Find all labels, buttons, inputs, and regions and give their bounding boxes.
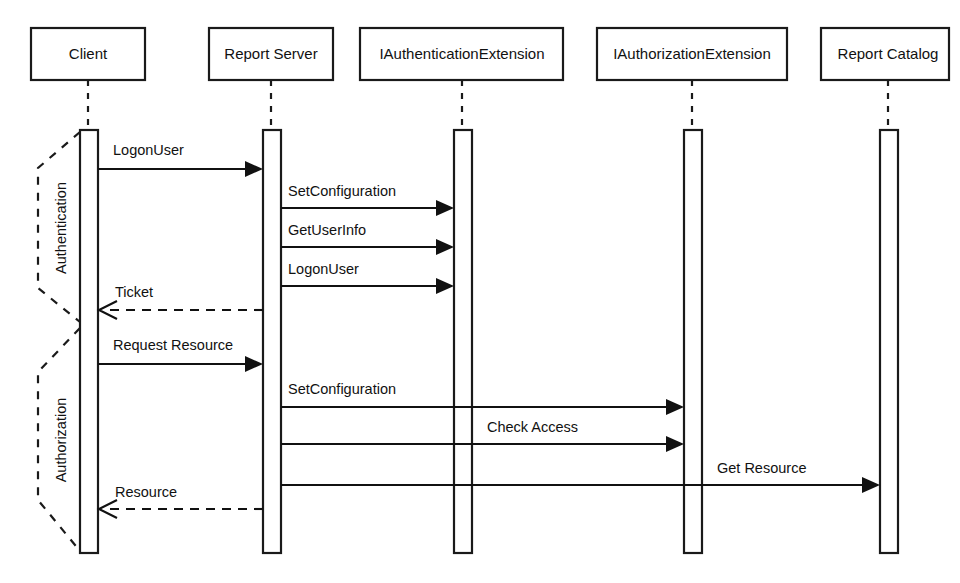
- message-label: Request Resource: [113, 337, 233, 353]
- participant-label-report-catalog: Report Catalog: [838, 45, 939, 62]
- participant-label-report-server: Report Server: [224, 45, 317, 62]
- message-check-access-server-to-authz[interactable]: Check Access: [281, 419, 684, 452]
- activation-bar-authnext: [454, 130, 472, 553]
- participant-boxes-layer: Client Report Server IAuthenticationExte…: [31, 28, 949, 80]
- arrowhead-filled-icon: [245, 356, 263, 372]
- message-get-resource-server-to-catalog[interactable]: Get Resource: [281, 460, 880, 493]
- group-bracket-authentication: Authentication: [38, 132, 80, 322]
- activation-bar-reportsrv: [263, 130, 281, 553]
- arrowhead-filled-icon: [245, 161, 263, 177]
- group-label-authentication: Authentication: [53, 182, 69, 274]
- group-bracket-authorization: Authorization: [38, 328, 80, 551]
- message-label: LogonUser: [113, 142, 184, 158]
- message-label: LogonUser: [288, 261, 359, 277]
- message-logonuser-client-to-server[interactable]: LogonUser: [98, 142, 263, 177]
- participant-label-iauthorizationextension: IAuthorizationExtension: [613, 45, 771, 62]
- arrowhead-filled-icon: [862, 477, 880, 493]
- message-resource-server-to-client[interactable]: Resource: [99, 484, 263, 518]
- arrowhead-filled-icon: [666, 399, 684, 415]
- message-request-resource-client-to-server[interactable]: Request Resource: [98, 337, 263, 372]
- sequence-diagram-svg: Client Report Server IAuthenticationExte…: [0, 0, 960, 583]
- activation-bar-client: [80, 130, 98, 553]
- participant-label-client: Client: [69, 45, 108, 62]
- activation-bar-catalog: [880, 130, 898, 553]
- message-label: Get Resource: [717, 460, 806, 476]
- message-label: GetUserInfo: [288, 222, 366, 238]
- message-setconfiguration-server-to-authz[interactable]: SetConfiguration: [281, 381, 684, 415]
- message-setconfiguration-server-to-authn[interactable]: SetConfiguration: [281, 183, 454, 216]
- arrowhead-filled-icon: [436, 200, 454, 216]
- message-label: SetConfiguration: [288, 183, 396, 199]
- message-logonuser-server-to-authn[interactable]: LogonUser: [281, 261, 454, 294]
- message-label: SetConfiguration: [288, 381, 396, 397]
- message-getuserinfo-server-to-authn[interactable]: GetUserInfo: [281, 222, 454, 255]
- message-label: Check Access: [487, 419, 578, 435]
- message-label: Resource: [115, 484, 177, 500]
- arrowhead-filled-icon: [436, 239, 454, 255]
- lifelines-layer: [88, 80, 888, 130]
- activation-bar-authzext: [684, 130, 702, 553]
- sequence-diagram-canvas: Client Report Server IAuthenticationExte…: [0, 0, 960, 583]
- message-ticket-server-to-client[interactable]: Ticket: [99, 284, 263, 319]
- arrowhead-filled-icon: [436, 278, 454, 294]
- arrowhead-filled-icon: [666, 436, 684, 452]
- message-label: Ticket: [115, 284, 153, 300]
- participant-label-iauthenticationextension: IAuthenticationExtension: [379, 45, 544, 62]
- group-label-authorization: Authorization: [53, 398, 69, 483]
